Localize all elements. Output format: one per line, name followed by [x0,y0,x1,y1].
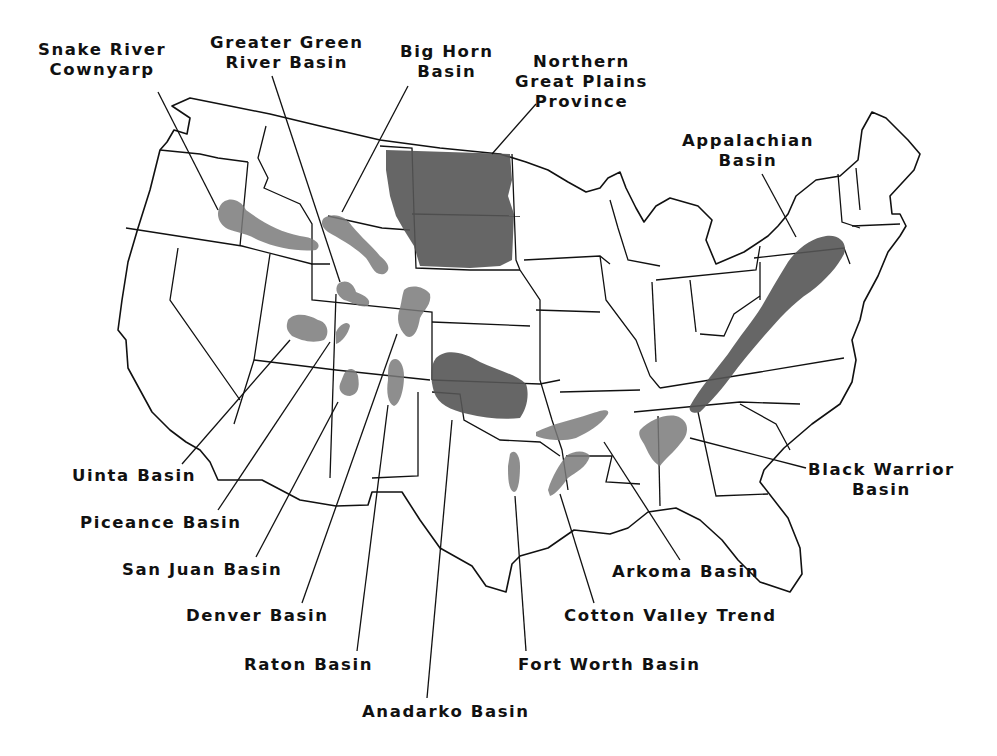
label-northern-great-plains: NorthernGreat PlainsProvince [515,52,648,112]
label-line: Raton Basin [244,655,373,675]
label-arkoma: Arkoma Basin [612,562,759,582]
label-line: Denver Basin [186,606,329,626]
label-black-warrior: Black WarriorBasin [808,460,955,500]
label-line: Province [515,92,648,112]
label-line: Fort Worth Basin [518,655,701,675]
label-line: Snake River [38,40,166,60]
label-cotton-valley: Cotton Valley Trend [564,606,777,626]
label-san-juan: San Juan Basin [122,560,282,580]
label-line: River Basin [210,53,364,73]
label-line: Northern [515,52,648,72]
label-fort-worth: Fort Worth Basin [518,655,701,675]
label-line: Basin [808,480,955,500]
label-big-horn: Big HornBasin [400,42,494,82]
label-line: Piceance Basin [80,513,242,533]
label-line: Great Plains [515,72,648,92]
label-line: Cownyarp [38,60,166,80]
label-appalachian: AppalachianBasin [682,131,814,171]
label-line: Anadarko Basin [362,702,530,722]
label-line: San Juan Basin [122,560,282,580]
label-line: Greater Green [210,33,364,53]
label-snake-river: Snake RiverCownyarp [38,40,166,80]
label-denver: Denver Basin [186,606,329,626]
label-line: Black Warrior [808,460,955,480]
label-anadarko: Anadarko Basin [362,702,530,722]
label-line: Appalachian [682,131,814,151]
label-line: Cotton Valley Trend [564,606,777,626]
label-line: Basin [682,151,814,171]
label-piceance: Piceance Basin [80,513,242,533]
label-uinta: Uinta Basin [72,466,196,486]
us-basins-map [0,0,997,756]
label-raton: Raton Basin [244,655,373,675]
label-greater-green-river: Greater GreenRiver Basin [210,33,364,73]
label-line: Arkoma Basin [612,562,759,582]
label-line: Big Horn [400,42,494,62]
label-line: Uinta Basin [72,466,196,486]
label-line: Basin [400,62,494,82]
